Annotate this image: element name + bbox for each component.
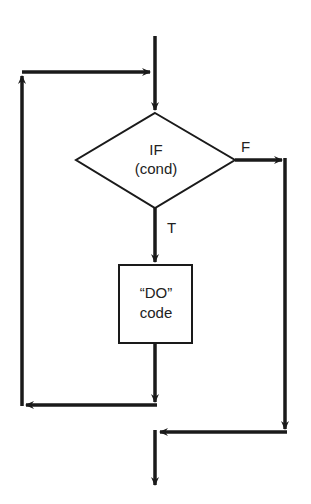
- process-label-line2: code: [119, 303, 193, 323]
- false-branch-label: F: [241, 138, 250, 155]
- process-label: “DO” code: [119, 283, 193, 323]
- decision-label: IF (cond): [96, 140, 216, 178]
- process-label-line1: “DO”: [119, 283, 193, 303]
- true-branch-label: T: [167, 219, 176, 236]
- flowchart-canvas: [0, 0, 311, 504]
- decision-label-line1: IF: [96, 140, 216, 159]
- decision-label-line2: (cond): [96, 159, 216, 178]
